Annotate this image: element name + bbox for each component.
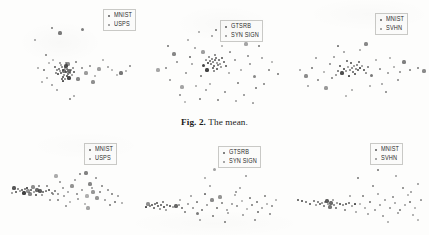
scatter-point [365,72,367,74]
scatter-point [362,195,364,197]
scatter-point [385,91,387,93]
scatter-point [179,94,182,97]
scatter-point [22,191,25,194]
scatter-point [84,203,86,205]
scatter-point [153,207,156,210]
scatter-point [348,202,350,204]
scatter-point [212,215,214,217]
scatter-point [81,28,84,31]
scatter-point [62,80,64,82]
scatter-point [364,207,367,210]
scatter-point [169,205,171,207]
plot-canvas-bottom-left [0,135,143,235]
legend-entry: GTSRB [223,22,259,31]
scatter-point [17,188,19,190]
scatter-point [72,67,74,69]
scatter-point [205,89,208,92]
scatter-point [205,59,207,61]
scatter-point [86,206,89,209]
scatter-point [394,202,396,204]
scatter-point [226,209,229,212]
scatter-point [74,179,76,181]
scatter-point [176,61,178,63]
scatter-point [116,74,119,77]
scatter-point [234,194,236,196]
scatter-point [323,71,325,73]
scatter-point [70,69,72,71]
legend-top-center: GTSRB SYN SIGN [220,20,263,42]
legend-entry-label: GTSRB [231,23,251,29]
scatter-point [337,45,339,47]
scatter-point [387,72,390,75]
scatter-point [356,64,359,67]
scatter-point [256,201,259,204]
scatter-point [91,187,93,189]
scatter-point [61,66,63,68]
legend-entry: USPS [106,20,132,29]
scatter-point [81,67,83,69]
scatter-point [384,199,386,201]
scatter-point [236,205,238,207]
scatter-point [94,75,96,77]
scatter-point [11,192,13,194]
scatter-point [211,58,213,60]
dot-marker-icon [221,151,226,155]
scatter-point [323,205,325,207]
scatter-point [313,200,316,203]
scatter-point [407,194,409,196]
scatter-point [213,168,216,171]
scatter-point [402,60,405,63]
scatter-point [67,76,70,79]
scatter-point [48,189,50,191]
scatter-point [77,198,79,200]
scatter-point [102,59,105,62]
scatter-point [121,202,124,205]
scatter-point [235,191,237,193]
scatter-point [271,61,274,64]
scatter-point [224,221,226,223]
scatter-point [73,95,75,97]
scatter-point [252,102,254,104]
scatter-point [215,29,217,31]
scatter-point [354,203,356,205]
scatter-point [307,85,309,87]
plot-canvas-bottom-right [286,135,429,235]
scatter-point [156,202,158,204]
scatter-point [166,204,168,206]
scatter-point [212,67,214,69]
scatter-point [359,49,362,52]
scatter-point [52,193,54,195]
scatter-point [109,204,112,207]
scatter-point [367,66,369,68]
scatter-point [81,189,83,191]
legend-entry-label: SYN SIGN [231,32,259,38]
scatter-point [210,198,213,201]
scatter-point [228,72,230,74]
dot-marker-icon [223,25,228,29]
scatter-point [129,65,132,68]
scatter-point [51,84,53,86]
scatter-point [348,75,350,77]
legend-entry: MNIST [87,145,113,154]
scatter-point [243,94,245,96]
legend-bottom-right: MNIST SVHN [370,143,403,165]
figure-page: MNIST USPS GTSRB SYN SIGN [0,0,429,235]
scatter-point [71,74,74,77]
scatter-point [353,65,355,67]
scatter-point [349,69,351,71]
scatter-point [67,191,70,194]
scatter-point [162,201,165,204]
scatter-point [240,69,243,72]
scatter-point [190,195,193,198]
scatter-point [156,68,159,71]
scatter-point [66,62,69,65]
scatter-point [28,192,31,195]
scatter-point [57,199,59,201]
scatter-point [247,55,250,58]
scatter-point [79,173,81,175]
scatter-point [349,195,352,198]
legend-top-left: MNIST USPS [103,9,136,31]
legend-entry-label: SYN SIGN [229,158,257,164]
scatter-point [41,81,43,83]
scatter-point [56,69,58,71]
